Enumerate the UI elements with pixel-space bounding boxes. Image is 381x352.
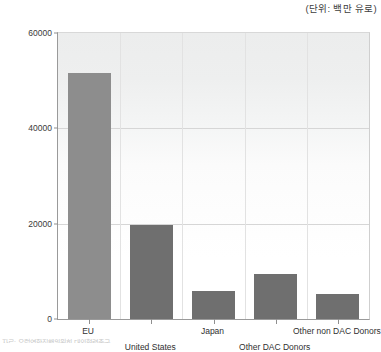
source-note: 자료: 유럽연합집행위원회 대외협력총국	[2, 338, 172, 343]
x-axis-tick-mark	[276, 319, 277, 324]
vertical-gridline	[245, 33, 246, 319]
unit-annotation: (단위: 백만 유로)	[305, 1, 377, 15]
y-axis-tick-label: 60000	[28, 28, 52, 38]
vertical-gridline	[120, 33, 121, 319]
bar	[254, 274, 297, 319]
bar	[68, 73, 111, 319]
y-axis-tick-mark	[54, 33, 58, 34]
x-axis-label: EU	[82, 326, 94, 336]
y-axis-tick-mark	[54, 128, 58, 129]
y-axis-tick-mark	[54, 319, 58, 320]
x-axis-label: United States	[125, 342, 176, 352]
y-axis-tick-label: 40000	[28, 123, 52, 133]
vertical-gridline	[307, 33, 308, 319]
bar	[192, 291, 235, 319]
y-axis-tick-label: 0	[47, 314, 52, 324]
x-axis-tick-mark	[89, 319, 90, 324]
x-axis-label: Japan	[201, 326, 224, 336]
x-axis-label: Other DAC Donors	[239, 342, 310, 352]
x-axis-label: Other non DAC Donors	[293, 326, 381, 336]
bar-chart: 0200004000060000 EUUnited StatesJapanOth…	[19, 17, 371, 324]
x-axis-tick-mark	[214, 319, 215, 324]
plot-area: 0200004000060000	[57, 32, 370, 320]
x-axis-tick-mark	[338, 319, 339, 324]
y-axis-tick-mark	[54, 223, 58, 224]
bar	[316, 294, 359, 319]
vertical-gridline	[182, 33, 183, 319]
y-axis-tick-label: 20000	[28, 219, 52, 229]
bar	[130, 225, 173, 319]
x-axis-tick-mark	[151, 319, 152, 324]
